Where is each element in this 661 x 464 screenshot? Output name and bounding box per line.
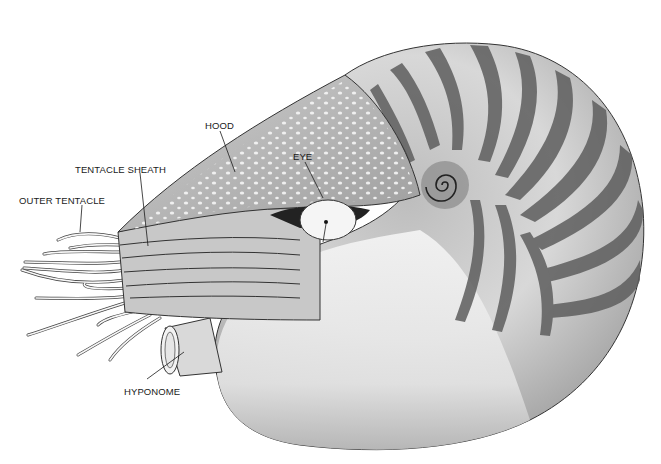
label-hood: HOOD — [205, 121, 234, 131]
label-hyponome: HYPONOME — [124, 387, 180, 397]
label-outer-tentacle: OUTER TENTACLE — [19, 196, 105, 206]
nautilus-illustration — [0, 0, 661, 464]
label-eye: EYE — [293, 152, 312, 162]
hyponome — [161, 318, 222, 376]
shell-umbilicus — [421, 161, 469, 209]
nautilus-diagram: EYE HOOD TENTACLE SHEATH OUTER TENTACLE … — [0, 0, 661, 464]
label-tentacle-sheath: TENTACLE SHEATH — [75, 165, 166, 175]
